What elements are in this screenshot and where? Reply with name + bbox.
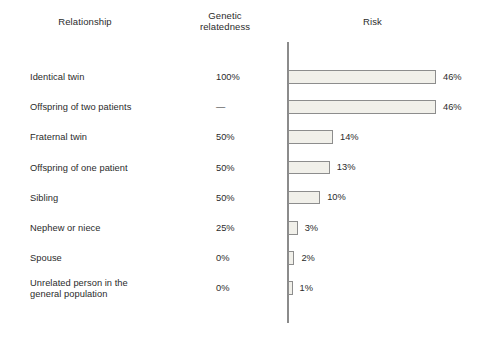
row-value-genetic-relatedness: 50%	[216, 163, 276, 174]
row-value-genetic-relatedness: 0%	[216, 253, 276, 264]
row-label-relationship: Identical twin	[30, 72, 205, 83]
row-label-line1: Fraternal twin	[30, 132, 205, 143]
row-label-line1: Offspring of one patient	[30, 163, 205, 174]
column-header-relationship: Relationship	[10, 16, 160, 27]
risk-bar-value-label: 1%	[300, 283, 313, 294]
row-value-genetic-relatedness: 100%	[216, 72, 276, 83]
column-header-risk: Risk	[315, 16, 430, 27]
risk-bar	[288, 221, 298, 235]
risk-bar	[288, 130, 333, 144]
risk-bar-value-label: 14%	[340, 132, 359, 143]
risk-bar	[288, 281, 293, 295]
risk-bar-value-label: 46%	[443, 102, 462, 113]
risk-bar	[288, 100, 436, 114]
risk-bar-value-label: 3%	[305, 223, 318, 234]
risk-bar-value-label: 2%	[301, 253, 314, 264]
row-label-relationship: Offspring of one patient	[30, 163, 205, 174]
row-label-line1: Offspring of two patients	[30, 102, 205, 113]
table-row: Offspring of one patient50%13%	[0, 163, 484, 179]
row-label-relationship: Fraternal twin	[30, 132, 205, 143]
table-row: Spouse0%2%	[0, 253, 484, 269]
risk-bar	[288, 161, 330, 175]
table-row: Fraternal twin50%14%	[0, 132, 484, 148]
column-header-genetic-line2: relatedness	[175, 21, 275, 32]
row-value-genetic-relatedness: —	[216, 102, 276, 113]
row-label-line1: Nephew or niece	[30, 223, 205, 234]
risk-bar	[288, 70, 436, 84]
table-row: Unrelated person in thegeneral populatio…	[0, 283, 484, 299]
row-label-relationship: Sibling	[30, 193, 205, 204]
column-header-genetic-relatedness: Genetic relatedness	[175, 10, 275, 32]
row-label-relationship: Nephew or niece	[30, 223, 205, 234]
risk-bar	[288, 251, 294, 265]
table-row: Nephew or niece25%3%	[0, 223, 484, 239]
risk-bar-value-label: 10%	[327, 192, 346, 203]
table-row: Sibling50%10%	[0, 193, 484, 209]
row-label-relationship: Offspring of two patients	[30, 102, 205, 113]
risk-bar-value-label: 13%	[337, 162, 356, 173]
row-label-line1: Identical twin	[30, 72, 205, 83]
row-value-genetic-relatedness: 50%	[216, 132, 276, 143]
table-row: Offspring of two patients—46%	[0, 102, 484, 118]
table-row: Identical twin100%46%	[0, 72, 484, 88]
row-label-line1: Sibling	[30, 193, 205, 204]
risk-bar	[288, 191, 320, 205]
row-value-genetic-relatedness: 25%	[216, 223, 276, 234]
row-label-relationship: Spouse	[30, 253, 205, 264]
row-value-genetic-relatedness: 0%	[216, 283, 276, 294]
row-value-genetic-relatedness: 50%	[216, 193, 276, 204]
row-label-relationship: Unrelated person in thegeneral populatio…	[30, 278, 205, 300]
row-label-line1: Spouse	[30, 253, 205, 264]
row-label-line1: Unrelated person in the	[30, 278, 205, 289]
row-label-line2: general population	[30, 289, 205, 300]
risk-by-relationship-figure: Relationship Genetic relatedness Risk Id…	[0, 0, 484, 341]
risk-bar-value-label: 46%	[443, 72, 462, 83]
column-header-genetic-line1: Genetic	[175, 10, 275, 21]
